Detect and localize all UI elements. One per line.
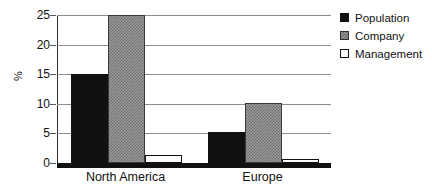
x-axis-category-label: North America [57, 170, 194, 184]
bar-population-europe [208, 132, 245, 163]
y-axis-tick-label: 10 [22, 98, 50, 110]
bar-company-europe [245, 103, 282, 163]
y-axis-tick-label: 20 [22, 39, 50, 51]
y-axis-tick-label: 15 [22, 68, 50, 80]
y-axis-tick-mark [50, 45, 56, 46]
bar-population-north-america [71, 74, 108, 163]
legend-swatch-icon [340, 31, 349, 40]
gridline [57, 15, 331, 16]
y-axis-tick-label: 0 [22, 157, 50, 169]
x-axis-category-label: Europe [194, 170, 331, 184]
y-axis-tick-labels: 0510152025 [22, 0, 50, 193]
legend-swatch-icon [340, 49, 349, 58]
y-axis-tick-label: 5 [22, 127, 50, 139]
y-axis-tick-mark [50, 104, 56, 105]
bar-chart: % 0510152025 North AmericaEurope Populat… [0, 0, 432, 193]
chart-legend: PopulationCompanyManagement [340, 9, 432, 63]
legend-swatch-icon [340, 13, 349, 22]
y-axis-tick-label: 25 [22, 9, 50, 21]
y-axis-tick-mark [50, 163, 56, 164]
legend-item-company[interactable]: Company [340, 27, 432, 44]
x-axis-baseline [57, 163, 331, 168]
legend-item-population[interactable]: Population [340, 9, 432, 26]
legend-item-management[interactable]: Management [340, 45, 432, 62]
y-axis-tick-mark [50, 15, 56, 16]
bar-company-north-america [108, 15, 145, 163]
plot-area [57, 15, 331, 163]
y-axis-tick-mark [50, 74, 56, 75]
bar-management-north-america [145, 155, 182, 163]
gridline [57, 45, 331, 46]
legend-label: Population [355, 12, 409, 24]
legend-label: Management [355, 48, 422, 60]
y-axis-tick-mark [50, 133, 56, 134]
legend-label: Company [355, 30, 404, 42]
